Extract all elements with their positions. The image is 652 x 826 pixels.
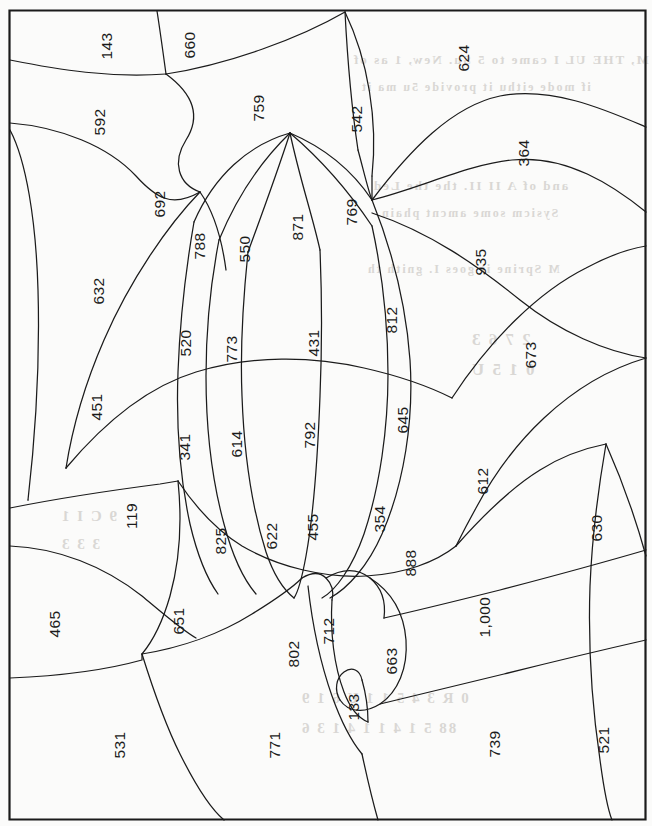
region-label-451: 451 bbox=[88, 393, 106, 420]
region-label-431: 431 bbox=[305, 329, 323, 356]
edge-612-888 bbox=[456, 444, 606, 546]
edge-812-meridian bbox=[330, 200, 411, 598]
region-label-651: 651 bbox=[170, 607, 188, 634]
edge-143-592 bbox=[10, 60, 166, 75]
edge-lens-left-upper bbox=[194, 133, 290, 222]
region-label-1000: 1,000 bbox=[476, 597, 494, 638]
edge-630-1000 bbox=[589, 444, 612, 820]
edge-771-739 bbox=[362, 754, 378, 820]
region-label-612: 612 bbox=[474, 467, 492, 494]
edge-341-119 bbox=[10, 481, 178, 508]
edge-632-left bbox=[10, 130, 39, 500]
region-label-660: 660 bbox=[181, 31, 199, 58]
region-label-773: 773 bbox=[223, 335, 241, 362]
region-label-825: 825 bbox=[212, 527, 230, 554]
region-label-364: 364 bbox=[515, 139, 533, 166]
edge-542-624 bbox=[345, 12, 374, 176]
edge-lens-550 bbox=[248, 133, 290, 252]
region-label-622: 622 bbox=[263, 522, 281, 549]
region-label-812: 812 bbox=[383, 306, 401, 333]
region-label-771: 771 bbox=[266, 731, 284, 758]
region-label-119: 119 bbox=[123, 503, 141, 529]
region-label-542: 542 bbox=[348, 105, 366, 132]
edge-364-935 bbox=[372, 159, 646, 212]
edge-143-660 bbox=[157, 11, 166, 74]
region-label-888: 888 bbox=[402, 549, 420, 576]
region-label-341: 341 bbox=[176, 433, 194, 460]
edge-769-junction bbox=[358, 150, 372, 200]
region-label-712: 712 bbox=[320, 617, 338, 644]
edge-935-673 bbox=[372, 213, 646, 358]
region-label-614: 614 bbox=[228, 430, 246, 457]
region-label-133: 133 bbox=[345, 693, 363, 720]
region-label-455: 455 bbox=[304, 513, 322, 540]
edge-663-loop bbox=[340, 578, 406, 710]
region-label-802: 802 bbox=[285, 640, 303, 667]
region-label-871: 871 bbox=[289, 213, 307, 240]
region-label-354: 354 bbox=[371, 505, 389, 532]
edge-673-612 bbox=[456, 358, 646, 546]
region-label-520: 520 bbox=[177, 329, 195, 356]
edge-tangle-hook-left bbox=[302, 574, 333, 601]
edge-651-771 bbox=[142, 654, 224, 820]
edge-660-692 bbox=[166, 74, 200, 192]
region-label-143: 143 bbox=[98, 32, 116, 59]
region-label-759: 759 bbox=[250, 94, 268, 121]
region-label-673: 673 bbox=[522, 341, 540, 368]
edge-lens-769-right bbox=[290, 133, 372, 200]
edge-521-outer bbox=[606, 444, 646, 556]
region-label-663: 663 bbox=[383, 647, 401, 674]
region-label-692: 692 bbox=[151, 190, 169, 217]
edge-1000-739 bbox=[380, 640, 646, 704]
edge-465-119 bbox=[10, 546, 196, 638]
scanned-page: M, THE UL I came to 5 Su. New, 1 as ofif… bbox=[0, 0, 652, 826]
region-label-592: 592 bbox=[91, 108, 109, 135]
region-label-792: 792 bbox=[301, 421, 319, 448]
region-label-624: 624 bbox=[455, 44, 473, 71]
region-label-465: 465 bbox=[46, 610, 64, 637]
region-label-531: 531 bbox=[111, 731, 129, 758]
region-label-739: 739 bbox=[486, 730, 504, 757]
edge-465-531 bbox=[10, 654, 142, 678]
region-label-769: 769 bbox=[343, 198, 361, 225]
region-label-632: 632 bbox=[90, 277, 108, 304]
region-label-630: 630 bbox=[588, 514, 606, 541]
edge-888-1000 bbox=[384, 550, 646, 618]
edge-624-364 bbox=[372, 94, 646, 200]
region-label-521: 521 bbox=[595, 726, 613, 753]
region-label-935: 935 bbox=[472, 248, 490, 275]
region-label-788: 788 bbox=[191, 232, 209, 259]
region-label-645: 645 bbox=[394, 406, 412, 433]
region-label-550: 550 bbox=[236, 235, 254, 262]
